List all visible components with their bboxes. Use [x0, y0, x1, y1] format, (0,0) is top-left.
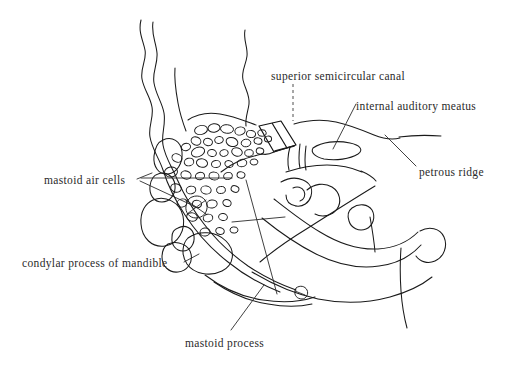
leader-petrous-ridge — [385, 135, 416, 166]
label-internal-auditory-meatus: internal auditory meatus — [356, 100, 476, 113]
leader-mastoid-process — [231, 285, 264, 330]
bottom-right-long-curve — [252, 272, 432, 302]
label-mastoid-air-cells: mastoid air cells — [44, 174, 125, 187]
petrous-upper-ridge — [294, 120, 400, 139]
label-petrous-ridge: petrous ridge — [419, 166, 484, 179]
cross-tick-connector — [232, 217, 285, 222]
skull-outline-third — [175, 68, 186, 131]
large-air-cell-1 — [154, 139, 182, 174]
jugular-lobe-upper — [281, 178, 312, 206]
long-diagonal-ridge — [260, 186, 375, 262]
mid-contour-right-tail — [361, 171, 376, 181]
canal-lower-slope — [221, 154, 262, 172]
label-mastoid-process: mastoid process — [185, 337, 264, 350]
upper-right-wavy — [243, 30, 250, 126]
facial-canal-hook-right — [299, 144, 300, 168]
label-condylar-process-of-mandible: condylar process of mandible — [22, 257, 168, 270]
canal-shade-edge — [275, 146, 294, 151]
internal-auditory-meatus-oval — [312, 142, 361, 160]
facial-canal-hook-left — [288, 147, 290, 170]
mastoid-process-tip — [205, 275, 315, 302]
jugular-lobe-lower — [286, 195, 296, 206]
label-superior-semicircular-canal: superior semicircular canal — [271, 70, 405, 83]
jugular-lobe-inner — [293, 187, 305, 201]
anatomical-figure: superior semicircular canal internal aud… — [0, 0, 514, 370]
petrous-ridge-line — [399, 135, 441, 137]
large-air-cell-3 — [141, 198, 184, 246]
mid-contour-under-meatus — [286, 165, 362, 172]
skull-base-sweep — [274, 199, 418, 249]
